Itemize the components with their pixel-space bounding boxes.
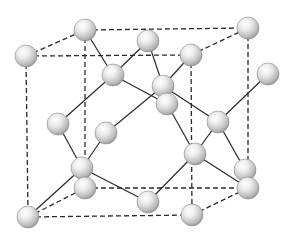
atom-front-bottom-left xyxy=(17,206,39,228)
atom-front-bottom-right xyxy=(181,204,203,226)
atom-inner-lower-left xyxy=(71,157,93,179)
atom-top-face-center xyxy=(137,30,159,52)
atom-front-top-left xyxy=(15,45,37,67)
atom-back-top-left xyxy=(74,19,96,41)
atom-front-top-right xyxy=(180,44,202,66)
cube-edge xyxy=(28,215,192,217)
atom-front-face-center xyxy=(184,143,206,165)
crystal-structure-diagram xyxy=(0,0,293,244)
atom-bottom-face-center xyxy=(137,191,159,213)
cube-edge xyxy=(191,55,192,215)
cube-edge xyxy=(26,56,28,217)
atom-inner-center-b xyxy=(156,93,178,115)
atoms xyxy=(15,17,279,228)
atom-back-top-right xyxy=(237,17,259,39)
atom-back-bottom-left xyxy=(74,177,96,199)
atom-inner-upper-right xyxy=(207,111,229,133)
atom-left-face-center xyxy=(47,113,69,135)
cube-edge xyxy=(85,28,248,30)
atom-inner-mid-left xyxy=(95,122,117,144)
atom-inner-upper-left xyxy=(102,64,124,86)
atom-right-face-center xyxy=(257,63,279,85)
cube-edge xyxy=(26,55,191,56)
atom-back-bottom-right xyxy=(237,177,259,199)
